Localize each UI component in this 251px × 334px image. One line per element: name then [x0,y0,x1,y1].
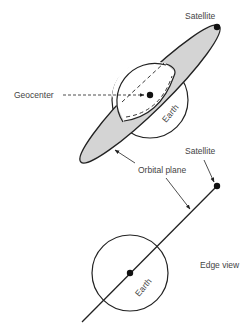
orbital-plane-arrow-edge [166,178,190,209]
edge-view-label: Edge view [200,260,240,270]
satellite-label-edge: Satellite [185,146,216,156]
satellite-dot-top [214,24,220,30]
earth-label-edge: Earth [133,276,154,298]
satellite-label-top: Satellite [185,11,216,21]
geocenter-dot-edge [127,270,133,276]
orbital-diagram: Geocenter Earth Satellite Orbital plane … [0,0,251,334]
orbital-plane-label: Orbital plane [138,165,186,175]
orbital-plane-callout: Orbital plane [115,150,190,209]
orbital-plane-arrow-top [115,150,135,163]
geocenter-label: Geocenter [14,90,54,100]
orbital-plane-edge-line [82,186,217,322]
satellite-dot-edge [214,183,220,189]
satellite-arrow-edge [204,160,214,182]
geocenter-dot [147,92,153,98]
